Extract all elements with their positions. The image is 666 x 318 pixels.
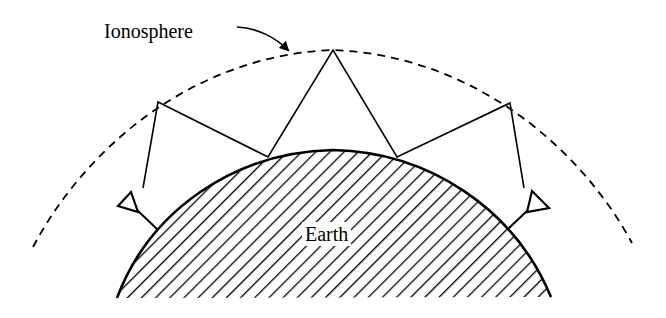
diagram-svg [0,0,666,318]
ionosphere-label: Ionosphere [104,21,193,41]
receive-antenna-icon [508,191,549,229]
diagram-canvas: Ionosphere Earth [0,0,666,318]
transmit-antenna-icon [118,192,158,230]
earth-label: Earth [302,222,351,246]
ionosphere-pointer-arrow [237,27,288,50]
